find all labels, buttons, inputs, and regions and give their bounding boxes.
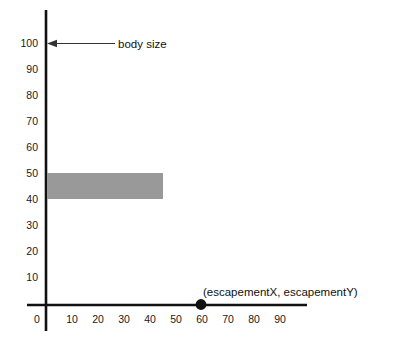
escapement-point-label: (escapementX, escapementY) [203,286,358,298]
metrics-diagram: body size (escapementX, escapementY) 100… [0,0,393,349]
glyph-bounding-box [47,173,163,199]
y-tick-label-60: 60 [26,141,38,153]
x-tick-label-0: 0 [34,313,40,325]
x-tick-label-90: 90 [274,313,286,325]
body-size-label: body size [118,38,167,50]
plot-canvas: body size (escapementX, escapementY) 100… [0,0,393,349]
y-tick-label-80: 80 [26,89,38,101]
x-tick-label-80: 80 [248,313,260,325]
body-size-arrowhead-icon [47,40,57,47]
x-tick-label-10: 10 [66,313,78,325]
x-tick-label-60: 60 [196,313,208,325]
y-tick-label-70: 70 [26,115,38,127]
y-tick-label-10: 10 [26,271,38,283]
x-tick-label-40: 40 [144,313,156,325]
y-tick-label-40: 40 [26,193,38,205]
y-tick-label-100: 100 [20,37,38,49]
x-tick-label-30: 30 [118,313,130,325]
y-tick-label-50: 50 [26,167,38,179]
escapement-point-marker [196,299,207,310]
x-tick-label-70: 70 [222,313,234,325]
x-tick-label-20: 20 [92,313,104,325]
y-tick-label-90: 90 [26,63,38,75]
y-tick-label-30: 30 [26,219,38,231]
y-tick-label-20: 20 [26,245,38,257]
x-tick-label-50: 50 [170,313,182,325]
